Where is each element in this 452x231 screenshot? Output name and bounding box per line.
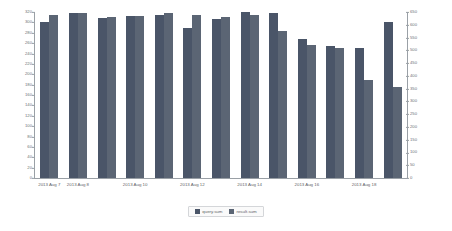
left-axis-tick: 320 bbox=[2, 10, 32, 14]
left-axis-tick: 260 bbox=[2, 41, 32, 45]
right-axis-tick: 500 bbox=[406, 48, 440, 52]
x-axis-tick-label: 2013 Aug 14 bbox=[237, 182, 262, 187]
bar-query-sum[interactable] bbox=[69, 13, 78, 178]
bar-group[interactable] bbox=[378, 12, 407, 178]
left-axis-tick: 140 bbox=[2, 103, 32, 107]
bar-result-sum[interactable] bbox=[278, 31, 287, 178]
left-axis-tick: 180 bbox=[2, 83, 32, 87]
right-value-axis: 050100150200250300350400450500550600650 bbox=[410, 12, 440, 178]
left-axis-tick: 100 bbox=[2, 124, 32, 128]
bar-query-sum[interactable] bbox=[241, 12, 250, 178]
right-axis-tick: 600 bbox=[406, 23, 440, 27]
bar-result-sum[interactable] bbox=[135, 16, 144, 178]
bar-group[interactable] bbox=[64, 12, 93, 178]
bar-group[interactable] bbox=[35, 12, 64, 178]
bar-query-sum[interactable] bbox=[269, 13, 278, 178]
x-axis-tick-label: 2013 Aug 16 bbox=[295, 182, 320, 187]
bar-query-sum[interactable] bbox=[326, 46, 335, 178]
right-axis-tick: 300 bbox=[406, 99, 440, 103]
bar-result-sum[interactable] bbox=[364, 80, 373, 178]
right-axis-tick: 150 bbox=[406, 138, 440, 142]
bar-query-sum[interactable] bbox=[183, 28, 192, 178]
right-axis-tick: 0 bbox=[406, 176, 440, 180]
left-axis-tick: 0 bbox=[2, 176, 32, 180]
bar-result-sum[interactable] bbox=[335, 48, 344, 178]
bar-group[interactable] bbox=[92, 12, 121, 178]
bar-query-sum[interactable] bbox=[155, 15, 164, 178]
bar-query-sum[interactable] bbox=[298, 39, 307, 178]
bar-query-sum[interactable] bbox=[355, 48, 364, 178]
left-axis-tick: 60 bbox=[2, 145, 32, 149]
bar-result-sum[interactable] bbox=[107, 17, 116, 178]
left-axis-tick: 200 bbox=[2, 72, 32, 76]
left-axis-tick: 220 bbox=[2, 62, 32, 66]
left-axis-tick: 80 bbox=[2, 134, 32, 138]
bar-chart: 0204060801001201401601802002202402602803… bbox=[0, 0, 452, 231]
left-axis-tick: 20 bbox=[2, 166, 32, 170]
left-axis-tick: 280 bbox=[2, 31, 32, 35]
x-axis-tick-label: 2013 Aug 10 bbox=[123, 182, 148, 187]
right-axis-tick: 100 bbox=[406, 150, 440, 154]
bar-result-sum[interactable] bbox=[250, 15, 259, 178]
right-axis-tick: 650 bbox=[406, 10, 440, 14]
left-axis-tick: 240 bbox=[2, 51, 32, 55]
left-axis-tick: 120 bbox=[2, 114, 32, 118]
bar-result-sum[interactable] bbox=[164, 13, 173, 178]
bar-result-sum[interactable] bbox=[221, 17, 230, 178]
right-axis-tick: 200 bbox=[406, 125, 440, 129]
bar-result-sum[interactable] bbox=[78, 13, 87, 178]
right-axis-tick: 400 bbox=[406, 74, 440, 78]
bar-group[interactable] bbox=[178, 12, 207, 178]
bar-group[interactable] bbox=[149, 12, 178, 178]
bar-result-sum[interactable] bbox=[307, 45, 316, 178]
left-value-axis: 0204060801001201401601802002202402602803… bbox=[2, 12, 32, 178]
bar-result-sum[interactable] bbox=[49, 15, 58, 178]
bar-query-sum[interactable] bbox=[98, 18, 107, 178]
right-axis-tick: 50 bbox=[406, 163, 440, 167]
right-axis-tick: 550 bbox=[406, 35, 440, 39]
bar-result-sum[interactable] bbox=[192, 15, 201, 178]
x-axis-labels: 2013 Aug 72013 Aug 82013 Aug 102013 Aug … bbox=[35, 182, 407, 194]
bar-group[interactable] bbox=[235, 12, 264, 178]
x-axis-tick-label: 2013 Aug 12 bbox=[180, 182, 205, 187]
bar-query-sum[interactable] bbox=[40, 22, 49, 178]
right-axis-tick: 350 bbox=[406, 87, 440, 91]
axis-baseline bbox=[34, 178, 408, 179]
legend-item[interactable]: result.sum bbox=[229, 209, 256, 214]
bar-groups bbox=[35, 12, 407, 178]
right-axis-tick: 450 bbox=[406, 61, 440, 65]
x-axis-tick-label: 2013 Aug 8 bbox=[67, 182, 89, 187]
bar-query-sum[interactable] bbox=[384, 22, 393, 178]
x-axis-tick-label: 2013 Aug 7 bbox=[38, 182, 60, 187]
legend-label: query.sum bbox=[202, 209, 222, 214]
bar-query-sum[interactable] bbox=[212, 19, 221, 178]
left-axis-tick: 300 bbox=[2, 20, 32, 24]
legend-label: result.sum bbox=[236, 209, 256, 214]
left-axis-tick: 40 bbox=[2, 155, 32, 159]
legend-box: query.sumresult.sum bbox=[188, 206, 263, 217]
bar-group[interactable] bbox=[207, 12, 236, 178]
legend-item[interactable]: query.sum bbox=[195, 209, 222, 214]
right-axis-tick: 250 bbox=[406, 112, 440, 116]
bar-group[interactable] bbox=[350, 12, 379, 178]
bar-group[interactable] bbox=[121, 12, 150, 178]
bar-group[interactable] bbox=[264, 12, 293, 178]
legend-swatch-icon bbox=[229, 209, 234, 214]
bar-group[interactable] bbox=[292, 12, 321, 178]
bar-group[interactable] bbox=[321, 12, 350, 178]
legend-swatch-icon bbox=[195, 209, 200, 214]
x-axis-tick-label: 2013 Aug 18 bbox=[352, 182, 377, 187]
legend: query.sumresult.sum bbox=[0, 206, 452, 217]
left-axis-tick: 160 bbox=[2, 93, 32, 97]
bar-query-sum[interactable] bbox=[126, 16, 135, 178]
bar-result-sum[interactable] bbox=[393, 87, 402, 178]
